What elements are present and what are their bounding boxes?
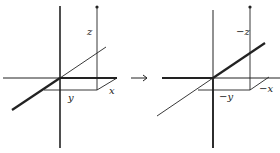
right-coordinate-system bbox=[157, 5, 280, 148]
reflection-diagram: z y x −z −y −x bbox=[0, 0, 280, 153]
right-x-label: −x bbox=[259, 83, 273, 94]
right-depth-axis bbox=[157, 78, 213, 116]
left-x-label: x bbox=[109, 85, 115, 96]
right-z-label: −z bbox=[236, 26, 250, 37]
left-z-label: z bbox=[86, 26, 93, 37]
left-y-label: y bbox=[67, 92, 74, 103]
right-depth-axis-negative bbox=[213, 43, 265, 78]
right-y-label: −y bbox=[219, 91, 233, 102]
left-depth-axis bbox=[60, 47, 106, 78]
transform-arrow bbox=[131, 75, 147, 81]
right-point bbox=[248, 5, 251, 8]
left-point bbox=[95, 5, 98, 8]
left-depth-axis-positive bbox=[12, 78, 60, 110]
left-coordinate-system bbox=[3, 5, 117, 148]
